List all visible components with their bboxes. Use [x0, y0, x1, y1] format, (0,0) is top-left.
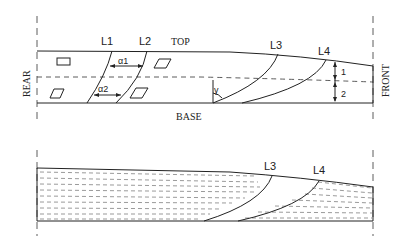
bottom-label-l4: L4 — [313, 164, 325, 176]
bottom-diagram: L3 L4 — [37, 150, 373, 236]
label-layer-2: 2 — [341, 89, 346, 99]
arrowhead — [116, 93, 121, 97]
top-diagram: L1 L2 TOP L3 L4 α1 α2 γ 1 2 BASE REAR FR… — [21, 16, 391, 124]
label-rear: REAR — [21, 70, 32, 97]
arrowhead — [333, 75, 337, 80]
label-l2: L2 — [139, 35, 151, 47]
bottom-label-l3: L3 — [264, 160, 276, 172]
bottom-l3-curve — [204, 176, 272, 221]
arrowhead — [333, 97, 337, 102]
arrowhead — [110, 64, 115, 68]
particle-parallelogram — [50, 89, 64, 98]
label-gamma: γ — [214, 85, 219, 95]
label-l1: L1 — [101, 35, 113, 47]
label-alpha2: α2 — [98, 84, 108, 94]
label-alpha1: α1 — [118, 56, 128, 66]
layer-boundary-dashed — [37, 77, 373, 82]
sediment-hatching — [40, 172, 372, 219]
particle-rect — [57, 58, 70, 65]
arrowhead — [333, 82, 337, 87]
diagram-canvas: L1 L2 TOP L3 L4 α1 α2 γ 1 2 BASE REAR FR… — [0, 0, 407, 251]
label-front: FRONT — [380, 64, 391, 97]
label-l3: L3 — [270, 39, 282, 51]
label-l4: L4 — [318, 45, 330, 57]
label-layer-1: 1 — [341, 67, 346, 77]
label-top: TOP — [171, 36, 190, 47]
label-base: BASE — [176, 111, 202, 122]
particle-parallelogram — [154, 59, 171, 68]
particle-parallelogram — [130, 88, 148, 98]
arrowhead — [333, 62, 337, 67]
